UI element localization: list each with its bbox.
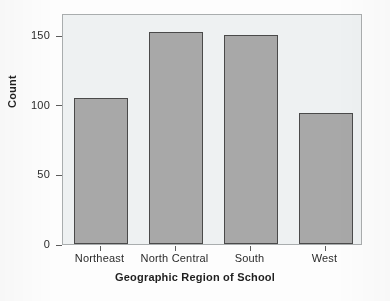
y-axis-tick-label: 0: [10, 238, 50, 250]
x-axis-tick: [175, 246, 176, 251]
plot-area: [62, 14, 362, 245]
bar: [149, 32, 203, 244]
x-axis-tick: [250, 246, 251, 251]
y-axis-tick-label: 150: [10, 29, 50, 41]
x-axis-tick: [325, 246, 326, 251]
bars-group: [63, 15, 361, 244]
y-axis-title: Count: [6, 75, 18, 108]
bar: [74, 98, 128, 244]
bar-chart-figure: 050100150 Count NortheastNorth CentralSo…: [0, 0, 390, 301]
bar: [224, 35, 278, 244]
bar: [299, 113, 353, 244]
x-axis-tick: [100, 246, 101, 251]
x-axis-title: Geographic Region of School: [0, 271, 390, 283]
x-axis-tick-label: West: [275, 252, 375, 264]
y-axis-tick-label: 50: [10, 168, 50, 180]
